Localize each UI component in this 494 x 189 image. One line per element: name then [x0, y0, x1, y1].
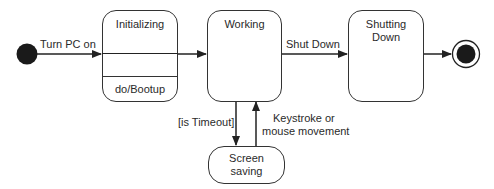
state-name: Working: [208, 18, 281, 31]
state-name-line2: saving: [209, 165, 284, 178]
final-state-inner: [457, 45, 476, 64]
state-name-line1: Shutting: [349, 18, 423, 31]
label-keystroke-line1: Keystroke or: [273, 112, 335, 124]
label-turn-pc-on: Turn PC on: [40, 38, 96, 50]
state-name-line1: Screen: [209, 152, 284, 165]
state-screen-saving: Screen saving: [208, 146, 285, 184]
state-working: Working: [207, 10, 282, 102]
state-name-line2: Down: [349, 31, 423, 44]
initial-state: [17, 44, 38, 65]
label-keystroke-line2: mouse movement: [262, 125, 349, 137]
initializing-through-line: [102, 53, 178, 54]
label-is-timeout: [is Timeout]: [178, 116, 234, 128]
state-initializing: Initializing do/Bootup: [102, 10, 178, 102]
state-name: Initializing: [103, 18, 177, 31]
state-shutting-down: Shutting Down: [348, 10, 424, 102]
label-shut-down: Shut Down: [286, 38, 340, 50]
state-activity: do/Bootup: [103, 83, 177, 96]
activity-divider: [103, 76, 177, 77]
